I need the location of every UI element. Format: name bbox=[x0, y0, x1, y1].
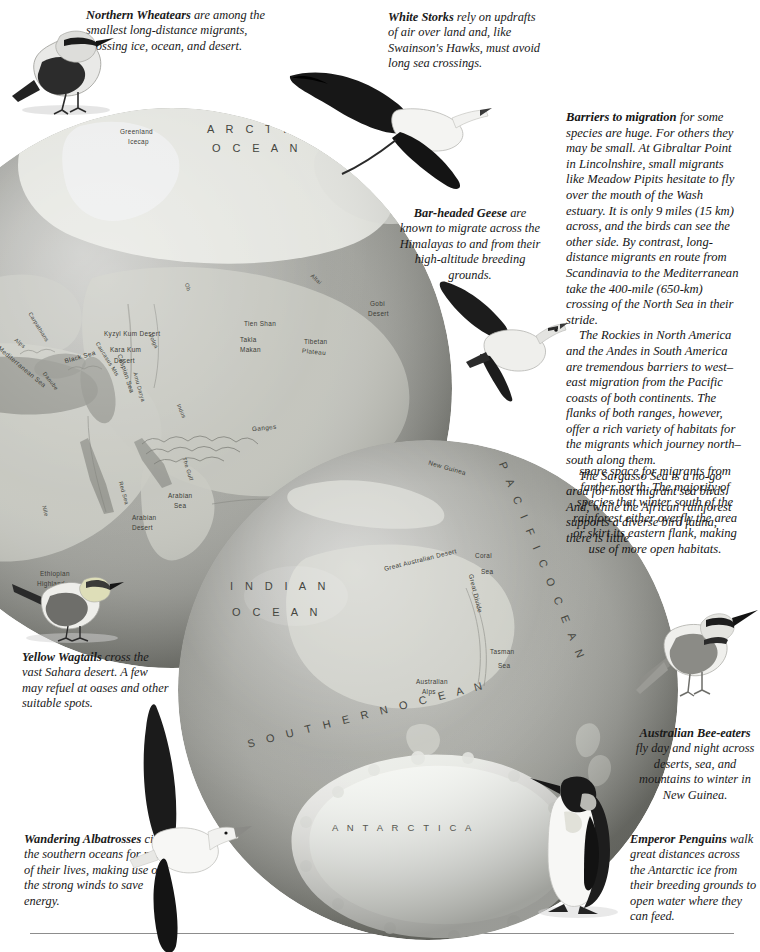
bird-yellow-wagtail bbox=[10, 548, 128, 646]
caption-emperor-penguins-lead: Emperor Penguins bbox=[630, 832, 727, 846]
caption-yellow-wagtails-lead: Yellow Wagtails bbox=[22, 650, 102, 664]
caption-bar-headed-geese-lead: Bar-headed Geese bbox=[414, 206, 507, 220]
caption-australian-bee-eaters: Australian Bee-eaters fly day and night … bbox=[632, 726, 758, 803]
bird-bar-headed-goose bbox=[432, 278, 568, 400]
bird-australian-bee-eater bbox=[636, 596, 760, 708]
bird-white-stork bbox=[280, 62, 492, 190]
article-paragraph-3-taper: spare space for migrants from farther no… bbox=[566, 464, 744, 558]
caption-australian-bee-eaters-body: fly day and night across deserts, sea, a… bbox=[636, 741, 755, 801]
article-paragraph-1-text: for some species are huge. For others th… bbox=[566, 110, 738, 327]
bird-emperor-penguin bbox=[520, 760, 628, 920]
caption-emperor-penguins: Emperor Penguins walk great distances ac… bbox=[630, 832, 758, 924]
caption-bar-headed-geese: Bar-headed Geese are known to migrate ac… bbox=[398, 206, 542, 283]
bird-northern-wheatear bbox=[8, 10, 126, 118]
bird-wandering-albatross bbox=[60, 700, 320, 950]
caption-australian-bee-eaters-lead: Australian Bee-eaters bbox=[639, 726, 750, 740]
caption-white-storks-lead: White Storks bbox=[388, 10, 454, 24]
article-lead: Barriers to migration bbox=[566, 110, 677, 124]
article-paragraph-2: The Rockies in North America and the And… bbox=[566, 328, 744, 468]
article-paragraph-1: Barriers to migration for some species a… bbox=[566, 110, 744, 328]
